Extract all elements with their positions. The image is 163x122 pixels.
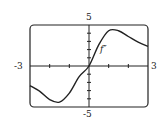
y-max-label: 5 — [86, 13, 92, 22]
curve-label: f″ — [100, 45, 107, 54]
chart-canvas — [0, 0, 163, 122]
x-min-label: -3 — [14, 62, 23, 71]
x-max-label: 3 — [151, 62, 157, 71]
y-min-label: -5 — [83, 110, 92, 119]
